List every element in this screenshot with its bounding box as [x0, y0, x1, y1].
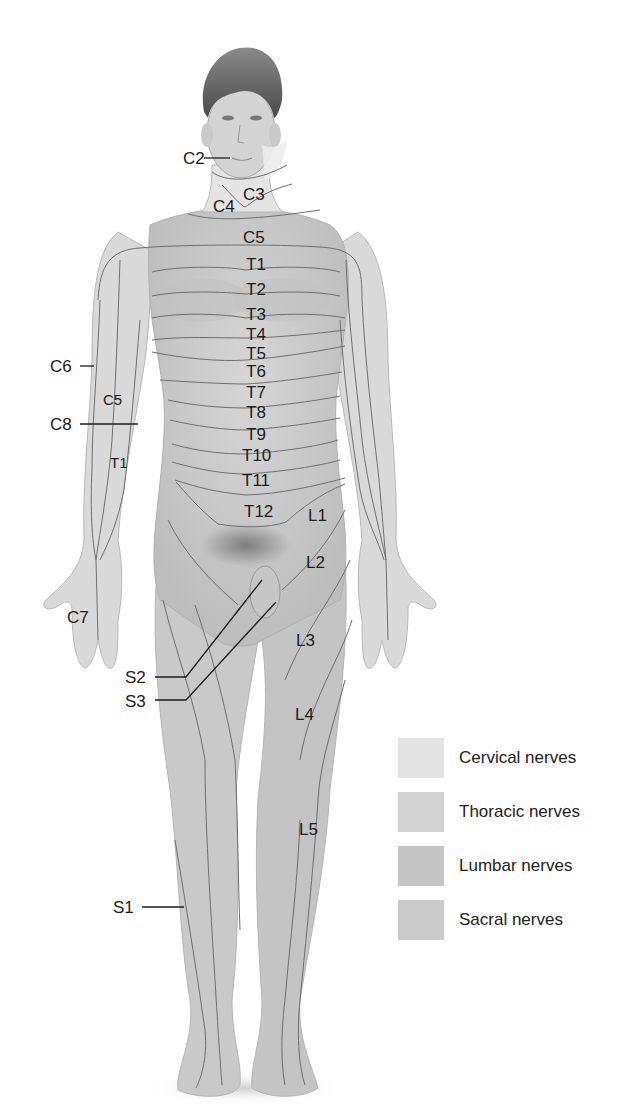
legend-swatch-sacral	[398, 900, 444, 940]
label-l5: L5	[299, 821, 318, 838]
legend-swatch-lumbar	[398, 846, 444, 886]
legend-item-thoracic: Thoracic nerves	[398, 792, 638, 832]
legend-swatch-thoracic	[398, 792, 444, 832]
label-l1: L1	[308, 507, 327, 524]
label-s3: S3	[125, 693, 146, 710]
label-t11: T11	[242, 472, 270, 489]
label-s1: S1	[113, 899, 134, 916]
label-t9: T9	[246, 426, 266, 443]
label-c5-arm: C5	[103, 392, 122, 407]
label-t1: T1	[246, 256, 266, 273]
legend-label-cervical: Cervical nerves	[459, 748, 576, 768]
label-t10: T10	[242, 447, 271, 464]
label-t8: T8	[246, 404, 266, 421]
label-c2: C2	[183, 150, 205, 167]
label-c3: C3	[243, 186, 265, 203]
legend-label-lumbar: Lumbar nerves	[459, 856, 572, 876]
label-t3: T3	[246, 306, 266, 323]
floor-shadow	[135, 1070, 355, 1106]
legend-item-sacral: Sacral nerves	[398, 900, 638, 940]
label-l3: L3	[296, 632, 315, 649]
label-t7: T7	[246, 384, 266, 401]
label-t6: T6	[246, 363, 266, 380]
label-l4: L4	[295, 706, 314, 723]
label-t2: T2	[246, 281, 266, 298]
genital	[250, 566, 280, 618]
label-t12: T12	[244, 503, 273, 520]
label-c8: C8	[50, 416, 72, 433]
label-l2: L2	[306, 554, 325, 571]
label-c7: C7	[67, 609, 89, 626]
legend-item-cervical: Cervical nerves	[398, 738, 638, 778]
legend-label-thoracic: Thoracic nerves	[459, 802, 580, 822]
label-t1-arm: T1	[110, 455, 128, 470]
label-c5: C5	[243, 229, 265, 246]
label-c6: C6	[50, 358, 72, 375]
legend-item-lumbar: Lumbar nerves	[398, 846, 638, 886]
legend-label-sacral: Sacral nerves	[459, 910, 563, 930]
label-s2: S2	[125, 669, 146, 686]
groin-shade	[201, 523, 291, 567]
legend-swatch-cervical	[398, 738, 444, 778]
label-t4: T4	[246, 326, 266, 343]
label-c4: C4	[213, 198, 235, 215]
label-t5: T5	[246, 345, 266, 362]
